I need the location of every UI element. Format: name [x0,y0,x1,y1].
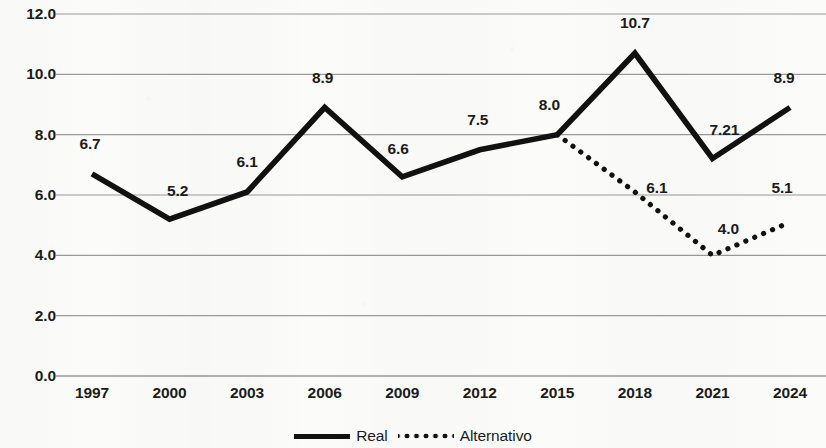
data-point-label: 5.1 [771,179,792,197]
data-point-label: 6.6 [388,140,409,158]
data-point-label: 6.1 [236,153,257,171]
data-point-label: 4.0 [718,220,739,238]
solid-line-icon [294,434,350,439]
legend-item-real[interactable]: Real [294,427,387,445]
data-point-label: 8.9 [773,69,794,87]
legend-item-label: Real [356,427,387,445]
data-point-label: 7.5 [467,111,488,129]
line-chart: 12.010.08.06.04.02.00.0 1997200020032006… [0,0,826,448]
data-point-label: 8.0 [539,96,560,114]
chart-legend: RealAlternativo [0,424,826,448]
data-point-label: 10.7 [620,14,650,32]
legend-item-alternativo[interactable]: Alternativo [398,427,532,445]
data-point-label: 7.21 [710,121,740,139]
data-point-label: 5.2 [167,182,188,200]
data-value-labels: 6.75.26.18.96.67.58.010.77.218.96.14.05.… [0,0,826,448]
data-point-label: 6.7 [79,135,100,153]
dotted-line-icon [398,433,454,439]
data-point-label: 8.9 [312,69,333,87]
legend-item-label: Alternativo [460,427,532,445]
data-point-label: 6.1 [646,179,667,197]
